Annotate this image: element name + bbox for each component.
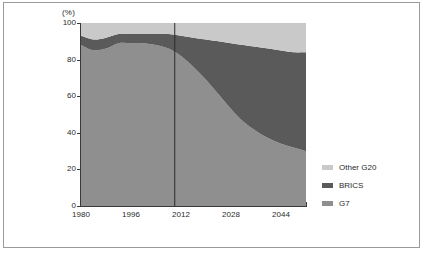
legend-label-other-g20: Other G20 xyxy=(339,163,376,172)
x-tick-label: 1980 xyxy=(61,211,101,219)
plot-svg xyxy=(81,23,306,206)
y-axis-unit-label: (%) xyxy=(62,8,75,17)
legend-label-brics: BRICS xyxy=(339,181,363,190)
x-tick-label: 2028 xyxy=(211,211,251,219)
legend-item-other-g20[interactable]: Other G20 xyxy=(322,158,417,176)
x-axis-right-cap xyxy=(306,202,307,207)
legend-item-brics[interactable]: BRICS xyxy=(322,176,417,194)
y-tick-label: 80 xyxy=(52,56,76,64)
legend: Other G20BRICSG7 xyxy=(322,158,417,212)
x-tick-label: 2044 xyxy=(261,211,301,219)
y-tick-label: 60 xyxy=(52,92,76,100)
x-axis-line xyxy=(80,206,307,207)
plot-area xyxy=(81,23,306,206)
y-tick-label: 0 xyxy=(52,202,76,210)
legend-item-g7[interactable]: G7 xyxy=(322,194,417,212)
y-tick-label: 40 xyxy=(52,129,76,137)
x-tick-label: 2012 xyxy=(161,211,201,219)
legend-swatch-brics xyxy=(322,183,333,188)
area-layer-group xyxy=(81,23,306,206)
legend-label-g7: G7 xyxy=(339,199,350,208)
stacked-area-chart: (%) 020406080100 19801996201220282044 Ot… xyxy=(4,3,421,249)
legend-swatch-other-g20 xyxy=(322,165,333,170)
y-tick-label: 100 xyxy=(52,19,76,27)
y-tick-label: 20 xyxy=(52,165,76,173)
x-tick-label: 1996 xyxy=(111,211,151,219)
figure-frame: (%) 020406080100 19801996201220282044 Ot… xyxy=(3,2,420,248)
legend-swatch-g7 xyxy=(322,201,333,206)
